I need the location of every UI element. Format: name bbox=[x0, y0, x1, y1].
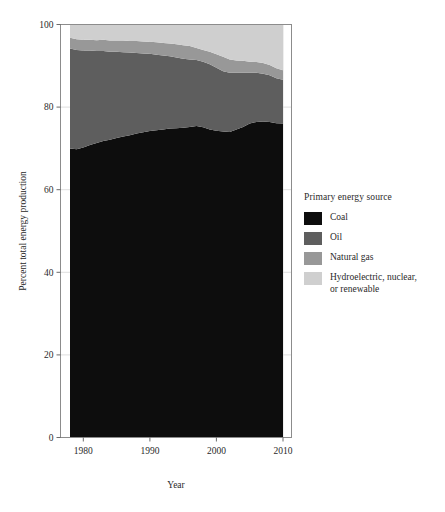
x-axis-tick-labels: 1980199020002010 bbox=[74, 446, 293, 456]
legend-item-label: Natural gas bbox=[330, 251, 374, 263]
legend-swatch-icon bbox=[304, 212, 322, 225]
y-tick-label: 100 bbox=[39, 20, 54, 30]
y-tick-label: 80 bbox=[44, 102, 54, 112]
x-tick-label: 1990 bbox=[140, 446, 159, 456]
legend-item[interactable]: Coal bbox=[304, 211, 442, 225]
legend-item[interactable]: Natural gas bbox=[304, 251, 442, 265]
stacked-area-chart-figure: 020406080100 1980199020002010 Percent to… bbox=[0, 0, 445, 512]
legend-swatch-icon bbox=[304, 232, 322, 245]
legend-items-list: CoalOilNatural gasHydroelectric, nuclear… bbox=[304, 211, 442, 295]
y-tick-label: 0 bbox=[49, 433, 54, 443]
legend-item[interactable]: Oil bbox=[304, 231, 442, 245]
y-tick-label: 40 bbox=[44, 268, 54, 278]
legend-item-label: Oil bbox=[330, 231, 342, 243]
stacked-area-series bbox=[70, 25, 283, 438]
legend-title: Primary energy source bbox=[304, 192, 442, 202]
x-axis-title: Year bbox=[167, 480, 185, 490]
area-series-coal bbox=[70, 122, 283, 438]
x-tick-label: 2010 bbox=[274, 446, 293, 456]
x-tick-label: 1980 bbox=[74, 446, 93, 456]
y-axis-title: Percent total energy production bbox=[18, 171, 28, 291]
legend-item-label: Coal bbox=[330, 211, 348, 223]
legend-swatch-icon bbox=[304, 272, 322, 285]
legend-item-label: Hydroelectric, nuclear, or renewable bbox=[330, 271, 417, 295]
legend-swatch-icon bbox=[304, 252, 322, 265]
chart-legend: Primary energy source CoalOilNatural gas… bbox=[304, 192, 442, 301]
y-tick-label: 20 bbox=[44, 350, 54, 360]
x-tick-label: 2000 bbox=[207, 446, 226, 456]
legend-item[interactable]: Hydroelectric, nuclear, or renewable bbox=[304, 271, 442, 295]
y-axis-tick-labels: 020406080100 bbox=[39, 20, 54, 443]
y-tick-label: 60 bbox=[44, 185, 54, 195]
